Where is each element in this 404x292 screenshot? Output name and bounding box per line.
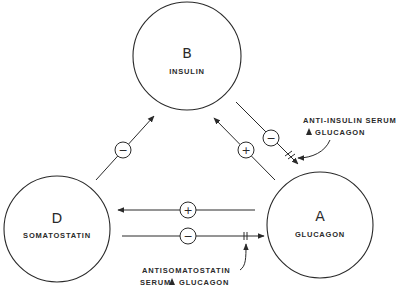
annotation-line1: ANTISOMATOSTATIN <box>142 266 231 275</box>
sign-label: − <box>183 230 192 243</box>
edge-glucagon-to-insulin: + <box>214 118 275 180</box>
islet-cell-diagram: B INSULIN D SOMATOSTATIN A GLUCAGON − + … <box>0 0 404 292</box>
node-glucagon: A GLUCAGON <box>267 172 373 278</box>
annotation-antisomatostatin: ANTISOMATOSTATIN SERUM GLUCAGON <box>140 244 246 287</box>
up-arrow-icon <box>306 128 312 135</box>
node-name: INSULIN <box>169 67 205 76</box>
annotation-line1: ANTI-INSULIN SERUM <box>303 116 397 125</box>
node-letter: D <box>52 210 63 226</box>
node-name: SOMATOSTATIN <box>23 231 91 240</box>
sign-label: + <box>241 144 250 157</box>
somatostatin-cell-circle <box>4 176 110 282</box>
node-name: GLUCAGON <box>295 230 345 239</box>
pointer-curve <box>240 244 246 270</box>
annotation-line2: GLUCAGON <box>315 128 365 137</box>
sign-label: − <box>118 144 127 157</box>
annotation-line2a: SERUM <box>140 278 171 287</box>
edge-somatostatin-to-insulin: − <box>96 116 154 180</box>
edge-somatostatin-to-glucagon: − <box>122 228 264 244</box>
annotation-line2b: GLUCAGON <box>179 278 229 287</box>
pointer-curve <box>298 140 330 158</box>
edge-glucagon-to-somatostatin: + <box>118 202 255 218</box>
sign-label: − <box>266 132 275 145</box>
node-letter: A <box>315 208 325 224</box>
glucagon-cell-circle <box>267 172 373 278</box>
node-letter: B <box>182 45 192 61</box>
node-somatostatin: D SOMATOSTATIN <box>4 176 110 282</box>
sign-label: + <box>183 204 192 217</box>
node-insulin: B INSULIN <box>133 2 241 110</box>
annotation-anti-insulin: ANTI-INSULIN SERUM GLUCAGON <box>298 116 397 158</box>
